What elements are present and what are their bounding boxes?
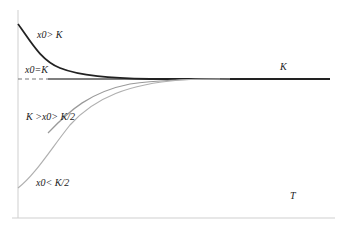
label-between: K >x0> K/2 <box>26 112 75 122</box>
label-x0-lt-half-K: x0< K/2 <box>36 178 69 188</box>
label-x0-gt-K: x0> K <box>37 30 62 40</box>
logistic-growth-chart: x0> K x0=K K >x0> K/2 x0< K/2 K T <box>0 0 342 225</box>
label-K: K <box>280 62 287 72</box>
label-x0-eq-K: x0=K <box>25 65 48 75</box>
label-T: T <box>290 191 296 201</box>
curve-x0-lt-half-K <box>18 79 230 188</box>
